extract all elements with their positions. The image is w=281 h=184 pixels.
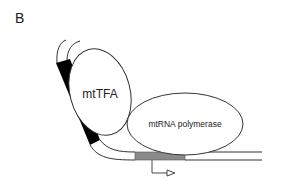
arrow-head-icon [167, 170, 175, 176]
transcription-start-arrow [152, 160, 168, 173]
dna-strand-bend-inner [100, 140, 135, 152]
dna-strand-bend-outer [90, 145, 135, 160]
mttfa-label: mtTFA [82, 87, 117, 101]
promoter-diagram: mtTFA mtRNA polymerase [0, 0, 281, 184]
mtrna-polymerase-label: mtRNA polymerase [148, 119, 221, 129]
dna-strand-top-end-1 [57, 40, 66, 63]
